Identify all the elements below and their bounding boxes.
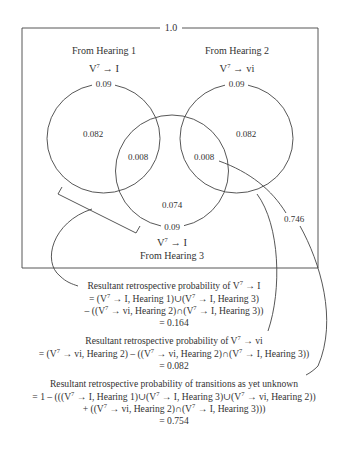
set-3-transition: V7 → I — [157, 236, 188, 248]
leader-746 — [219, 161, 286, 213]
equation-1-line-1: = (V7 → I, Hearing 1)∪(V7 → I, Hearing 3… — [0, 293, 348, 305]
equation-3-heading: Resultant retrospective probability of t… — [0, 378, 348, 390]
set-hearing-1-circle — [47, 84, 160, 193]
set-2-title: From Hearing 2 — [205, 45, 269, 56]
set-1-transition: V7 → I — [89, 62, 120, 74]
intersection-1-3: 0.008 — [128, 152, 149, 162]
universe-box — [22, 28, 318, 268]
set-1-total: 0.09 — [96, 79, 112, 89]
equation-2-line-1: = (V7 → vi, Hearing 2) – ((V7 → vi, Hear… — [0, 348, 348, 360]
set-2-transition: V7 → vi — [220, 62, 255, 74]
set-hearing-3-circle — [116, 115, 229, 227]
equation-1-heading: Resultant retrospective probability of V… — [0, 280, 348, 292]
set-2-exclusive: 0.082 — [236, 129, 256, 139]
set-3-title: From Hearing 3 — [140, 250, 204, 261]
set-3-total: 0.09 — [164, 222, 180, 232]
equation-3-line-2: + ((V7 → vi, Hearing 2)∩(V7 → I, Hearing… — [0, 403, 348, 415]
equation-3-result: = 0.754 — [0, 415, 348, 427]
equation-1-line-2: – ((V7 → vi, Hearing 2)∩(V7 → I, Hearing… — [0, 305, 348, 317]
set-1-title: From Hearing 1 — [72, 45, 136, 56]
leader-eq1 — [51, 209, 92, 286]
outside-value: 0.746 — [284, 214, 305, 224]
equation-1-result: = 0.164 — [0, 317, 348, 329]
equation-2-result: = 0.082 — [0, 360, 348, 372]
intersection-2-3: 0.008 — [194, 152, 215, 162]
universe-label: 1.0 — [165, 22, 178, 33]
equation-3-line-1: = 1 – (((V7 → I, Hearing 1)∪(V7 → I, Hea… — [0, 391, 348, 403]
set-1-exclusive: 0.082 — [83, 129, 103, 139]
equation-2-heading: Resultant retrospective probability of V… — [0, 335, 348, 347]
set-3-exclusive: 0.074 — [162, 200, 183, 210]
set-2-total: 0.09 — [229, 79, 245, 89]
union-bracket — [58, 187, 140, 233]
